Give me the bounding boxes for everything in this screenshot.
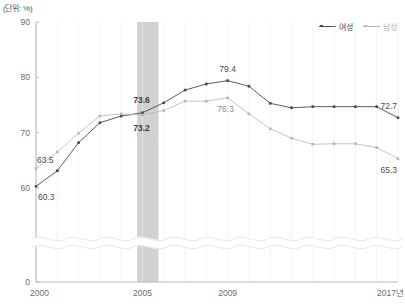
svg-text:63.5: 63.5: [37, 155, 54, 165]
svg-text:60: 60: [21, 183, 31, 193]
svg-text:70: 70: [21, 128, 31, 138]
svg-text:2000: 2000: [30, 288, 49, 298]
svg-text:2005: 2005: [133, 288, 152, 298]
svg-text:90: 90: [21, 17, 31, 27]
svg-text:60.3: 60.3: [38, 192, 55, 202]
svg-text:2017년: 2017년: [377, 288, 404, 298]
svg-text:73.6: 73.6: [133, 95, 150, 105]
line-chart-plot: 60.373.679.472.763.573.276.365.3 0607080…: [0, 0, 405, 306]
data-labels-layer: 60.373.679.472.763.573.276.365.3: [37, 64, 397, 203]
data-series-layer: [35, 79, 400, 187]
x-axis-ticks: 2000200520092017년: [30, 288, 404, 298]
axis-break-symbol-icon: [32, 237, 402, 248]
chart-container: (단위: %) 여성 남성 60.373.679.472.763.573.276…: [0, 0, 405, 306]
svg-text:2009: 2009: [218, 288, 237, 298]
svg-text:72.7: 72.7: [380, 101, 397, 111]
svg-text:76.3: 76.3: [217, 104, 234, 114]
svg-text:0: 0: [25, 277, 30, 287]
series-female: [35, 79, 400, 187]
svg-text:80: 80: [21, 72, 31, 82]
svg-text:79.4: 79.4: [219, 64, 236, 74]
svg-text:73.2: 73.2: [133, 123, 150, 133]
svg-text:65.3: 65.3: [380, 165, 397, 175]
